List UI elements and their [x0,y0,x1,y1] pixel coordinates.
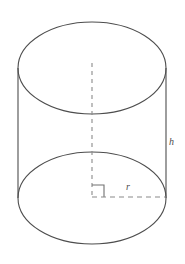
top-ellipse [18,22,166,114]
right-angle-marker [92,185,104,197]
cylinder-figure: h r [0,0,185,264]
height-label: h [169,137,174,147]
radius-label: r [126,182,130,192]
bottom-ellipse-front-arc [18,198,166,244]
cylinder-drawing [0,0,185,264]
